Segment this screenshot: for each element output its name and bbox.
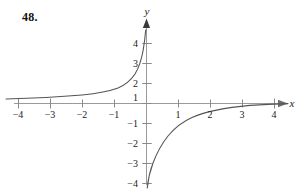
x-tick-labels: −4 −3 −2 −1 1 2 3 4: [13, 109, 277, 120]
y-tick-label--1: −1: [127, 118, 138, 129]
y-tick-label-3: 3: [133, 58, 138, 69]
y-tick-label--3: −3: [127, 158, 138, 169]
x-axis-label: x: [289, 97, 295, 109]
curve-left-branch: [6, 30, 146, 99]
x-tick-label-4: 4: [272, 109, 277, 120]
y-tick-label-2: 2: [133, 78, 138, 89]
x-tick-label-3: 3: [240, 109, 245, 120]
y-tick-labels: 4 3 2 1 −1 −2 −3 −4: [127, 38, 138, 189]
y-axis-label: y: [144, 5, 150, 17]
x-tick-label--4: −4: [13, 109, 24, 120]
coordinate-plane-graph: x y −4 −3 −2 −1 1 2 3 4 4 3 2 1 −1 −2 −3…: [0, 0, 304, 195]
curve-right-branch: [147, 104, 288, 188]
x-tick-label-2: 2: [208, 109, 213, 120]
x-tick-label-1: 1: [176, 109, 181, 120]
y-tick-label-1: 1: [133, 92, 138, 103]
x-tick-label--2: −2: [77, 109, 88, 120]
x-tick-label--1: −1: [109, 109, 120, 120]
y-axis-arrow-icon: [143, 19, 150, 29]
y-tick-label-4: 4: [133, 38, 138, 49]
figure-page: 48.: [0, 0, 304, 195]
y-tick-label--2: −2: [127, 138, 138, 149]
x-tick-label--3: −3: [45, 109, 56, 120]
y-tick-label--4: −4: [127, 178, 138, 189]
